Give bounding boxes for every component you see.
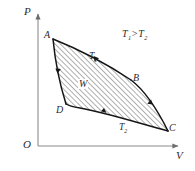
inequality-sub-right: 2: [144, 34, 147, 41]
work-area-label: W: [78, 79, 88, 89]
axis-label-p: P: [24, 6, 31, 17]
vertex-label-c: C: [169, 123, 176, 133]
vertex-label-b: B: [133, 73, 139, 83]
axis-label-v: V: [176, 150, 183, 161]
curve-label-t2-sub: 2: [124, 128, 127, 134]
curve-label-t1: T1: [89, 52, 97, 64]
cycle-area-hatched: [53, 39, 168, 131]
vertex-label-a: A: [44, 30, 50, 40]
origin-label: O: [23, 139, 31, 150]
temperature-inequality-annotation: T1>T2: [122, 29, 148, 41]
curve-label-t2: T2: [119, 123, 127, 135]
vertex-label-d: D: [56, 105, 63, 115]
curve-label-t1-sub: 1: [94, 57, 97, 63]
